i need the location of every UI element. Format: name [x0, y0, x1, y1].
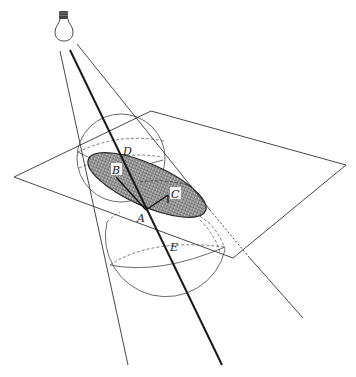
light-bulb-icon: [55, 11, 73, 41]
dandelin-spheres-diagram: D B C A E: [0, 0, 356, 377]
label-b: B: [111, 164, 120, 177]
cone-right-ray-lower: [248, 256, 303, 318]
shadow-ellipse: [80, 140, 214, 230]
lower-sphere: [105, 212, 225, 297]
label-a: A: [136, 212, 145, 225]
label-c: C: [171, 188, 180, 201]
label-d: D: [122, 145, 132, 158]
label-e: E: [169, 241, 178, 254]
cone-right-ray-hidden: [210, 210, 248, 256]
